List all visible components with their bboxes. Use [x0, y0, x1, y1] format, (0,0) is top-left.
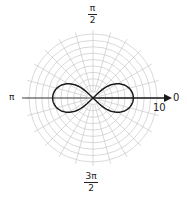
- polar-plot: [0, 0, 187, 200]
- label-zero: 0: [173, 93, 179, 103]
- label-half-pi: π 2: [88, 4, 97, 25]
- label-pi: π: [9, 93, 14, 102]
- label-half-pi-num: π: [90, 4, 95, 13]
- label-half-pi-den: 2: [90, 16, 96, 25]
- arrow-head-icon: [164, 94, 172, 102]
- label-three-half-pi-den: 2: [88, 184, 94, 193]
- label-three-half-pi-num: 3π: [85, 172, 96, 181]
- label-three-half-pi: 3π 2: [84, 172, 98, 193]
- label-radius-10: 10: [153, 103, 166, 113]
